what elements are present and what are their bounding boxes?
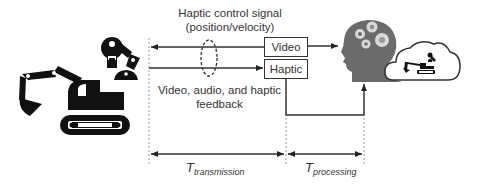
transmission-time-label: Ttransmission (186, 160, 244, 177)
video-box: Video (264, 37, 308, 57)
signal-bundle-ellipse (201, 40, 217, 76)
transmission-subscript: transmission (194, 167, 245, 177)
transmission-symbol: T (186, 160, 194, 175)
haptic-box-label: Haptic (270, 63, 303, 75)
processing-time-label: Tprocessing (305, 160, 356, 177)
control-signal-label: Haptic control signal (position/velocity… (160, 6, 300, 34)
excavator-icon (19, 66, 130, 135)
control-signal-label-line2: (position/velocity) (160, 20, 300, 34)
feedback-label: Video, audio, and haptic feedback (152, 83, 287, 111)
haptic-to-head-path (286, 79, 364, 115)
video-box-label: Video (271, 41, 300, 53)
processing-subscript: processing (313, 167, 357, 177)
feedback-label-line2: feedback (152, 97, 287, 111)
robot-arm-icon (101, 37, 140, 80)
feedback-label-line1: Video, audio, and haptic (152, 83, 287, 97)
control-signal-label-line1: Haptic control signal (160, 6, 300, 20)
haptic-box: Haptic (264, 59, 308, 79)
processing-symbol: T (305, 160, 313, 175)
